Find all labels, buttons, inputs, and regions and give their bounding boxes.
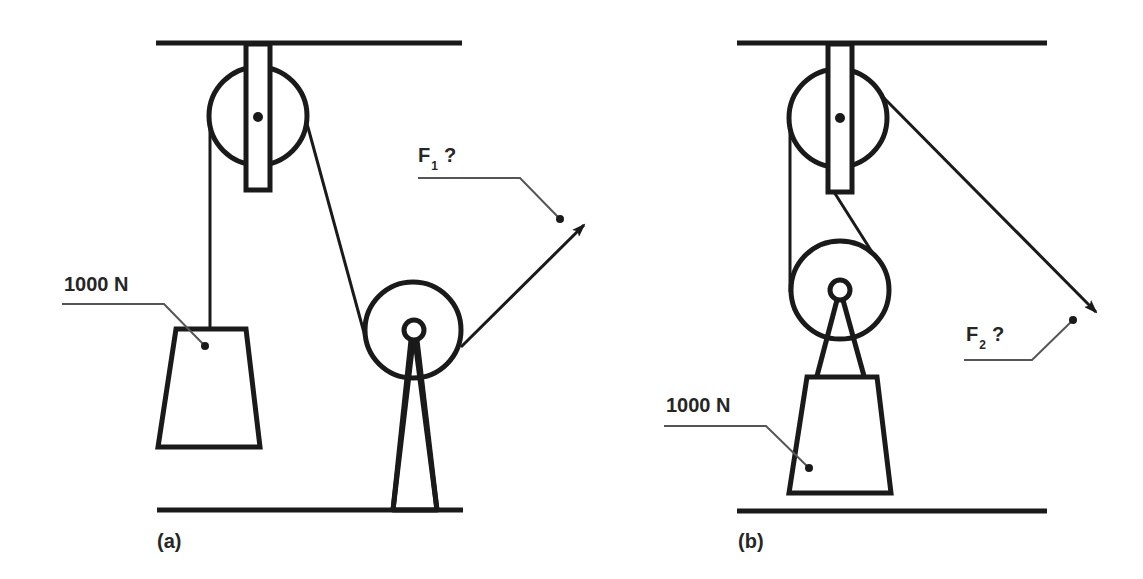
pulley-stand [393,333,437,510]
panel-a: 1000 N F1? (a) [62,43,584,552]
rope-right [306,120,366,340]
load-weight [158,329,260,447]
force-f2-arrow [882,96,1096,312]
f1-leader-line [418,178,560,219]
load-weight [789,377,891,493]
f2-label: F2? [966,323,1004,352]
panel-a-label: (a) [157,530,181,552]
pulley-axle [835,113,845,123]
load-leader-line [664,426,809,468]
pulley-axle [253,112,263,122]
load-label: 1000 N [64,273,129,295]
pulley-diagram: 1000 N F1? (a) [0,0,1143,579]
f2-leader-dot [1069,316,1077,324]
f1-label: F1? [418,144,456,173]
movable-pulley-hub [830,280,850,300]
load-leader-dot [805,464,813,472]
load-leader-dot [201,342,209,350]
floor-pulley-hub [404,320,424,340]
force-f1-arrow [461,225,584,347]
panel-b: 1000 N F2? (b) [664,43,1096,552]
panel-b-label: (b) [738,530,764,552]
f1-leader-dot [556,215,564,223]
load-label: 1000 N [666,394,731,416]
